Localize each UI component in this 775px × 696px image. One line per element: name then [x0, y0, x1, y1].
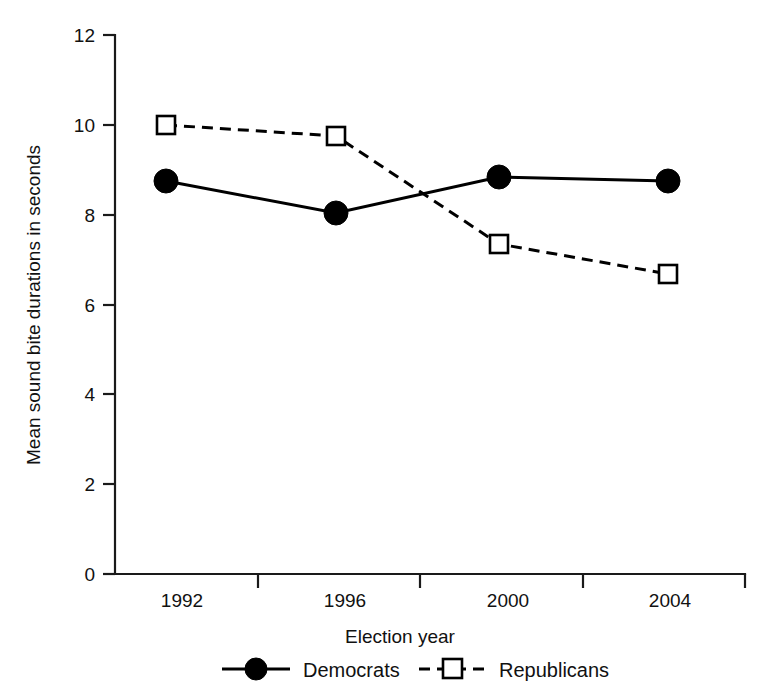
y-tick-label-6: 6: [84, 295, 95, 316]
chart-figure: 12 10 8 6 4 2 0 Mean sound bite duration…: [0, 0, 775, 696]
democrats-point-1996: [324, 201, 348, 225]
legend-label-democrats: Democrats: [303, 659, 400, 681]
democrats-point-2000: [487, 165, 511, 189]
x-tick-label-1996: 1996: [324, 590, 366, 611]
y-tick-label-12: 12: [74, 25, 95, 46]
y-tick-label-8: 8: [84, 205, 95, 226]
legend-item-democrats: Democrats: [222, 658, 400, 681]
legend-item-republicans: Republicans: [419, 659, 609, 681]
filled-circle-icon: [245, 658, 267, 680]
legend-label-republicans: Republicans: [499, 659, 609, 681]
republicans-point-1996: [327, 127, 345, 145]
y-axis: 12 10 8 6 4 2 0 Mean sound bite duration…: [23, 25, 115, 585]
y-tick-label-10: 10: [74, 115, 95, 136]
republicans-point-2004: [659, 265, 677, 283]
democrats-point-1992: [154, 169, 178, 193]
line-chart: 12 10 8 6 4 2 0 Mean sound bite duration…: [0, 0, 775, 696]
democrats-line: [166, 177, 668, 213]
x-axis: 1992 1996 2000 2004 Election year: [115, 574, 745, 647]
y-tick-label-4: 4: [84, 384, 95, 405]
series-democrats: [154, 165, 680, 225]
y-tick-label-2: 2: [84, 474, 95, 495]
republicans-point-1992: [157, 116, 175, 134]
chart-legend: Democrats Republicans: [222, 658, 609, 681]
open-square-icon: [443, 659, 462, 678]
x-tick-label-1992: 1992: [161, 590, 203, 611]
republicans-point-2000: [490, 235, 508, 253]
series-republicans: [157, 116, 677, 283]
democrats-point-2004: [656, 169, 680, 193]
x-axis-title: Election year: [345, 626, 456, 647]
y-axis-title: Mean sound bite durations in seconds: [23, 145, 44, 465]
y-tick-label-0: 0: [84, 564, 95, 585]
x-tick-label-2004: 2004: [649, 590, 692, 611]
x-tick-label-2000: 2000: [487, 590, 529, 611]
republicans-line: [166, 125, 668, 274]
